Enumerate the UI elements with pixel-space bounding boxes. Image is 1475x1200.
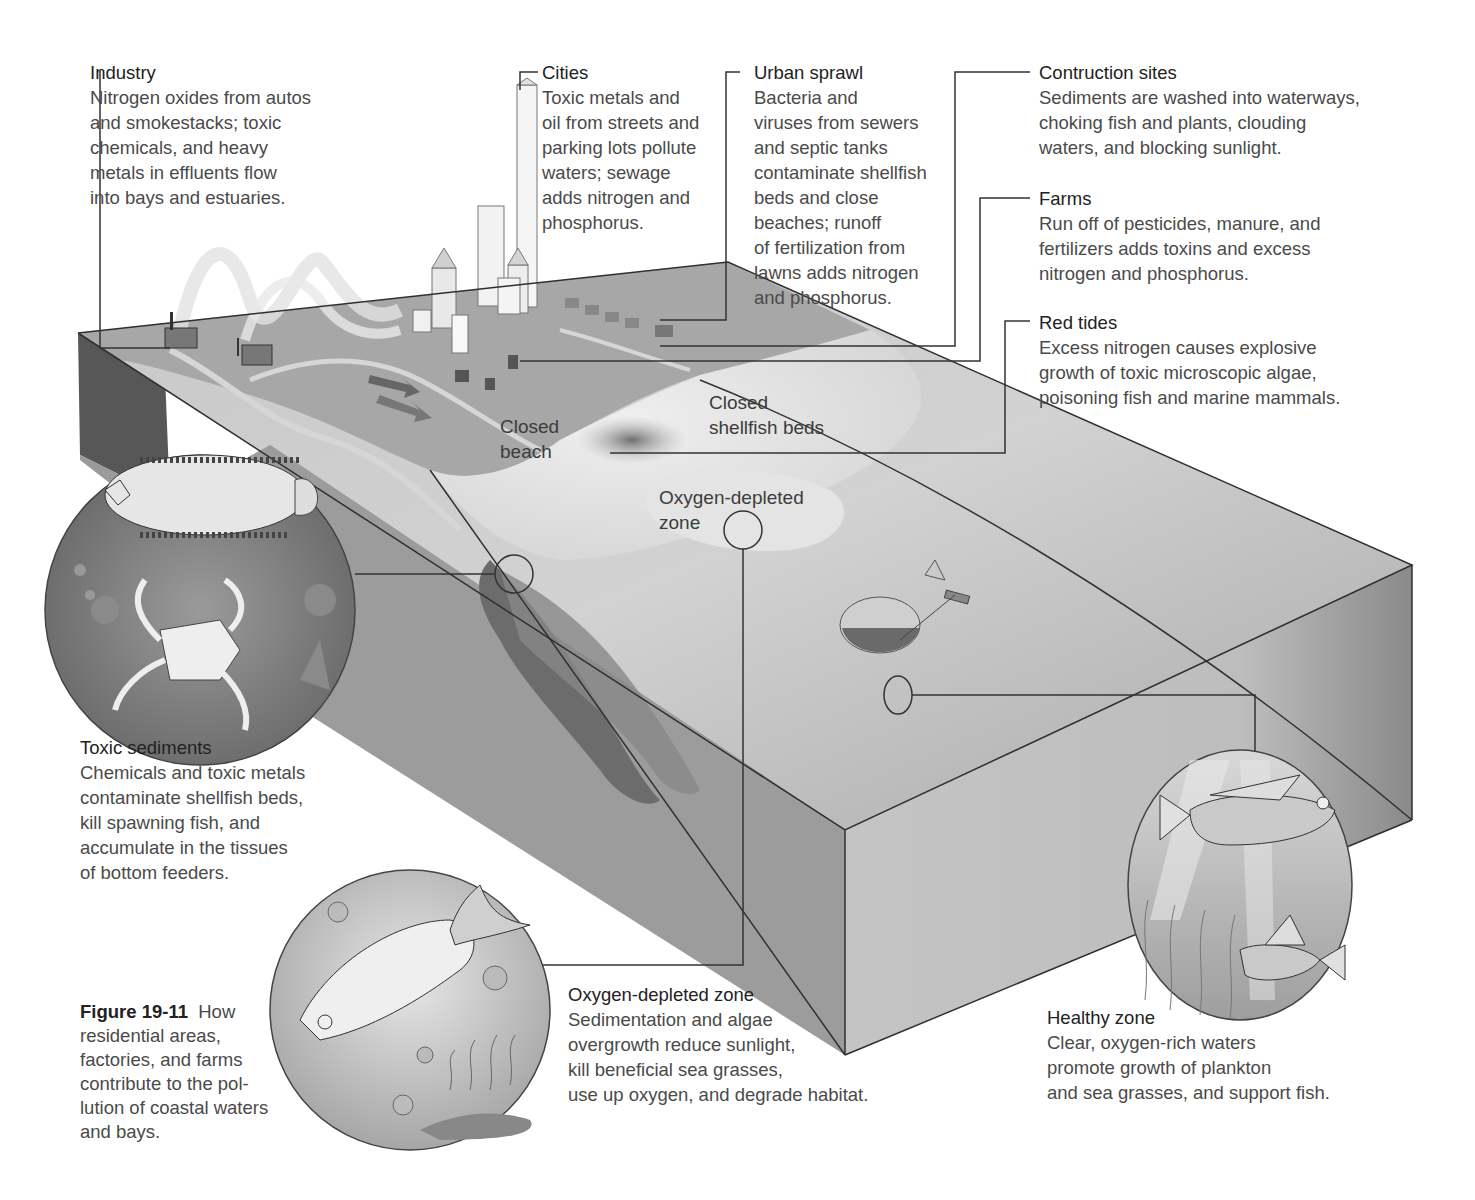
toxic-sediments-inset <box>45 455 355 765</box>
label-oxygen-depleted-zone: Oxygen-depleted zone <box>659 485 804 535</box>
callout-line: waters; sewage <box>542 160 699 185</box>
callout-line: metals in effluents flow <box>90 160 311 185</box>
callout-line: growth of toxic microscopic algae, <box>1039 360 1340 385</box>
callout-red-tides: Red tides Excess nitrogen causes explosi… <box>1039 310 1340 410</box>
callout-line: Nitrogen oxides from autos <box>90 85 311 110</box>
label-line: beach <box>500 439 559 464</box>
caption-line: lution of coastal waters <box>80 1096 310 1120</box>
callout-urban-sprawl: Urban sprawl Bacteria and viruses from s… <box>754 60 927 310</box>
callout-line: oil from streets and <box>542 110 699 135</box>
callout-line: Toxic metals and <box>542 85 699 110</box>
callout-line: overgrowth reduce sunlight, <box>568 1032 868 1057</box>
figure-number: Figure 19-11 <box>80 1001 188 1022</box>
callout-industry: Industry Nitrogen oxides from autos and … <box>90 60 311 210</box>
label-line: Oxygen-depleted <box>659 485 804 510</box>
caption-line: residential areas, <box>80 1024 310 1048</box>
callout-line: into bays and estuaries. <box>90 185 311 210</box>
callout-line: contaminate shellfish beds, <box>80 785 305 810</box>
label-line: Closed <box>709 390 824 415</box>
label-closed-shellfish-beds: Closed shellfish beds <box>709 390 824 440</box>
callout-line: parking lots pollute <box>542 135 699 160</box>
callout-farms: Farms Run off of pesticides, manure, and… <box>1039 186 1320 286</box>
label-line: zone <box>659 510 804 535</box>
callout-line: Excess nitrogen causes explosive <box>1039 335 1340 360</box>
callout-line: and smokestacks; toxic <box>90 110 311 135</box>
oxygen-depleted-inset <box>270 870 550 1150</box>
callout-line: Clear, oxygen-rich waters <box>1047 1030 1330 1055</box>
callout-title: Farms <box>1039 186 1320 211</box>
callout-line: beds and close <box>754 185 927 210</box>
callout-toxic-sediments: Toxic sediments Chemicals and toxic meta… <box>80 735 305 885</box>
caption-line: contribute to the pol- <box>80 1072 310 1096</box>
callout-line: adds nitrogen and <box>542 185 699 210</box>
callout-line: phosphorus. <box>542 210 699 235</box>
callout-line: and phosphorus. <box>754 285 927 310</box>
healthy-zone-inset <box>1128 750 1352 1020</box>
callout-cities: Cities Toxic metals and oil from streets… <box>542 60 699 235</box>
callout-line: of fertilization from <box>754 235 927 260</box>
callout-line: Chemicals and toxic metals <box>80 760 305 785</box>
callout-line: Sediments are washed into waterways, <box>1039 85 1360 110</box>
callout-line: and septic tanks <box>754 135 927 160</box>
caption-line: How <box>198 1001 235 1022</box>
callout-line: choking fish and plants, clouding <box>1039 110 1360 135</box>
callout-title: Toxic sediments <box>80 735 305 760</box>
callout-title: Contruction sites <box>1039 60 1360 85</box>
label-closed-beach: Closed beach <box>500 414 559 464</box>
callout-line: viruses from sewers <box>754 110 927 135</box>
callout-line: contaminate shellfish <box>754 160 927 185</box>
callout-line: kill beneficial sea grasses, <box>568 1057 868 1082</box>
figure-caption: Figure 19-11 How residential areas, fact… <box>80 1000 310 1144</box>
callout-title: Oxygen-depleted zone <box>568 982 868 1007</box>
callout-title: Cities <box>542 60 699 85</box>
callout-line: Bacteria and <box>754 85 927 110</box>
callout-line: and sea grasses, and support fish. <box>1047 1080 1330 1105</box>
callout-title: Urban sprawl <box>754 60 927 85</box>
caption-line: factories, and farms <box>80 1048 310 1072</box>
callout-line: use up oxygen, and degrade habitat. <box>568 1082 868 1107</box>
callout-oxygen-depleted-zone: Oxygen-depleted zone Sedimentation and a… <box>568 982 868 1107</box>
callout-line: kill spawning fish, and <box>80 810 305 835</box>
callout-line: accumulate in the tissues <box>80 835 305 860</box>
callout-line: Run off of pesticides, manure, and <box>1039 211 1320 236</box>
callout-line: chemicals, and heavy <box>90 135 311 160</box>
callout-line: poisoning fish and marine mammals. <box>1039 385 1340 410</box>
caption-line: and bays. <box>80 1120 310 1144</box>
callout-title: Industry <box>90 60 311 85</box>
callout-title: Healthy zone <box>1047 1005 1330 1030</box>
callout-title: Red tides <box>1039 310 1340 335</box>
label-line: shellfish beds <box>709 415 824 440</box>
callout-construction-sites: Contruction sites Sediments are washed i… <box>1039 60 1360 160</box>
callout-healthy-zone: Healthy zone Clear, oxygen-rich waters p… <box>1047 1005 1330 1105</box>
label-line: Closed <box>500 414 559 439</box>
callout-line: beaches; runoff <box>754 210 927 235</box>
callout-line: promote growth of plankton <box>1047 1055 1330 1080</box>
callout-line: nitrogen and phosphorus. <box>1039 261 1320 286</box>
callout-line: of bottom feeders. <box>80 860 305 885</box>
callout-line: fertilizers adds toxins and excess <box>1039 236 1320 261</box>
callout-line: waters, and blocking sunlight. <box>1039 135 1360 160</box>
callout-line: lawns adds nitrogen <box>754 260 927 285</box>
callout-line: Sedimentation and algae <box>568 1007 868 1032</box>
